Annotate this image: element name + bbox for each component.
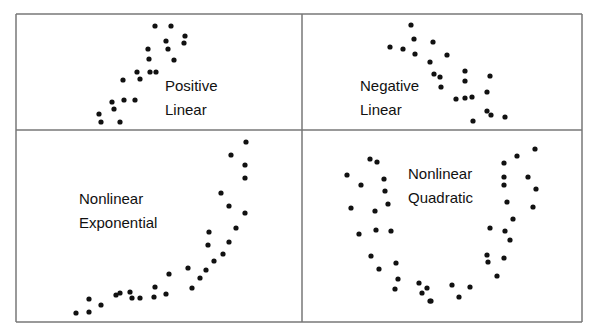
data-point (168, 23, 173, 28)
data-point (462, 68, 467, 73)
data-point (218, 190, 223, 195)
data-point (117, 119, 122, 124)
data-point (189, 285, 194, 290)
data-point (502, 228, 507, 233)
data-point (462, 95, 467, 100)
data-point (525, 174, 530, 179)
data-point (171, 57, 176, 62)
label-nonlinear-exponential: Nonlinear Exponential (79, 187, 157, 235)
data-point (166, 271, 171, 276)
data-point (367, 156, 372, 161)
data-point (456, 294, 461, 299)
data-point (388, 228, 393, 233)
data-point (374, 159, 379, 164)
data-point (182, 33, 187, 38)
data-point (376, 266, 381, 271)
data-point (127, 289, 132, 294)
data-point (358, 182, 363, 187)
data-point (501, 182, 506, 187)
data-point (145, 46, 150, 51)
data-point (152, 284, 157, 289)
data-point (228, 152, 233, 157)
data-point (488, 112, 493, 117)
data-point (211, 258, 216, 263)
data-point (504, 199, 509, 204)
label-nonlinear-exponential-line1: Nonlinear (79, 187, 157, 211)
data-point (501, 160, 506, 165)
data-point (416, 280, 421, 285)
data-point (532, 146, 537, 151)
data-point (393, 260, 398, 265)
data-point (242, 210, 247, 215)
data-point (86, 296, 91, 301)
data-point (96, 111, 101, 116)
data-point (487, 225, 492, 230)
data-point (121, 97, 126, 102)
label-nonlinear-exponential-line2: Exponential (79, 211, 157, 235)
data-point (382, 188, 387, 193)
data-point (428, 298, 433, 303)
data-point (507, 237, 512, 242)
data-point (111, 106, 116, 111)
data-point (501, 255, 506, 260)
data-point (381, 176, 386, 181)
data-point (373, 227, 378, 232)
data-point (117, 290, 122, 295)
label-negative-linear: Negative Linear (360, 74, 419, 122)
label-negative-linear-line1: Negative (360, 74, 419, 98)
data-point (387, 44, 392, 49)
data-point (510, 216, 515, 221)
data-point (134, 69, 139, 74)
data-point (120, 77, 125, 82)
data-point (242, 162, 247, 167)
data-point (484, 252, 489, 257)
data-point (484, 108, 489, 113)
data-point (197, 275, 202, 280)
data-point (152, 23, 157, 28)
label-nonlinear-quadratic-line2: Quadratic (408, 186, 473, 210)
data-point (165, 46, 170, 51)
data-point (185, 265, 190, 270)
data-point (501, 174, 506, 179)
data-point (226, 203, 231, 208)
label-nonlinear-quadratic: Nonlinear Quadratic (408, 162, 473, 210)
data-point (533, 186, 538, 191)
data-point (437, 74, 442, 79)
data-point (147, 69, 152, 74)
data-point (163, 291, 168, 296)
data-point (424, 285, 429, 290)
data-point (395, 276, 400, 281)
data-point (137, 76, 142, 81)
data-point (206, 229, 211, 234)
data-point (485, 259, 490, 264)
label-positive-linear-line1: Positive (165, 74, 218, 98)
data-point (203, 267, 208, 272)
data-point (163, 38, 168, 43)
data-point (205, 242, 210, 247)
scatter-pattern-grid (0, 0, 598, 335)
data-point (372, 208, 377, 213)
data-point (530, 204, 535, 209)
data-point (242, 175, 247, 180)
data-point (487, 73, 492, 78)
data-point (444, 52, 449, 57)
data-point (392, 286, 397, 291)
data-point (470, 118, 475, 123)
data-point (453, 96, 458, 101)
data-point (137, 295, 142, 300)
data-point (385, 201, 390, 206)
data-point (467, 284, 472, 289)
data-point (494, 273, 499, 278)
data-point (151, 294, 156, 299)
data-point (344, 172, 349, 177)
data-point (368, 253, 373, 258)
data-point (412, 51, 417, 56)
data-point (109, 99, 114, 104)
data-point (438, 84, 443, 89)
data-point (400, 46, 405, 51)
label-positive-linear-line2: Linear (165, 98, 218, 122)
label-negative-linear-line2: Linear (360, 98, 419, 122)
data-point (86, 309, 91, 314)
data-point (427, 59, 432, 64)
data-point (153, 69, 158, 74)
